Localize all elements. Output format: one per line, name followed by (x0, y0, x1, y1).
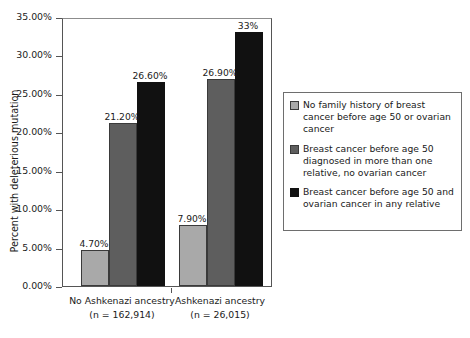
y-axis-tick: 15.00% (0, 172, 62, 173)
y-axis-tick: 5.00% (0, 249, 62, 250)
y-axis-tick: 10.00% (0, 210, 62, 211)
legend-item-label: Breast cancer before age 50 diagnosed in… (303, 143, 456, 180)
y-axis-tick-label: 30.00% (16, 49, 52, 60)
bar-value-label: 4.70% (67, 238, 121, 249)
bar (179, 225, 207, 286)
legend-swatch-icon (290, 145, 299, 154)
x-axis-group-divider (171, 288, 172, 293)
legend-item[interactable]: Breast cancer before age 50 diagnosed in… (290, 143, 456, 180)
bar (207, 79, 235, 286)
bar (109, 123, 137, 286)
y-axis-tick-label: 0.00% (22, 280, 52, 291)
y-axis-tick-label: 15.00% (16, 165, 52, 176)
bar-chart-figure: Percent with deleterious mutation 0.00%5… (0, 0, 470, 338)
y-axis-tick-mark (56, 287, 62, 288)
y-axis-tick-label: 25.00% (16, 88, 52, 99)
bar (81, 250, 109, 286)
y-axis-tick-label: 35.00% (16, 11, 52, 22)
legend-item-label: Breast cancer before age 50 and ovarian … (303, 186, 456, 210)
y-axis-tick: 20.00% (0, 133, 62, 134)
legend-item[interactable]: No family history of breast cancer befor… (290, 99, 456, 136)
x-axis-category-count: (n = 26,015) (160, 308, 280, 322)
bar-value-label: 21.20% (95, 111, 149, 122)
y-axis-tick: 30.00% (0, 56, 62, 57)
x-axis-category-name: Ashkenazi ancestry (160, 294, 280, 308)
y-axis-tick-label: 20.00% (16, 126, 52, 137)
x-axis-category-label: Ashkenazi ancestry(n = 26,015) (160, 294, 280, 321)
bar-value-label: 26.60% (123, 70, 177, 81)
legend-item[interactable]: Breast cancer before age 50 and ovarian … (290, 186, 456, 210)
legend-swatch-icon (290, 188, 299, 197)
legend-swatch-icon (290, 101, 299, 110)
legend-item-label: No family history of breast cancer befor… (303, 99, 456, 136)
legend: No family history of breast cancer befor… (283, 92, 462, 231)
bar-value-label: 26.90% (193, 67, 247, 78)
y-axis-tick: 35.00% (0, 18, 62, 19)
y-axis-tick-label: 5.00% (22, 242, 52, 253)
y-axis-tick: 0.00% (0, 287, 62, 288)
y-axis-tick: 25.00% (0, 95, 62, 96)
bar-value-label: 33% (221, 20, 275, 31)
y-axis-tick-label: 10.00% (16, 203, 52, 214)
bar-value-label: 7.90% (165, 213, 219, 224)
